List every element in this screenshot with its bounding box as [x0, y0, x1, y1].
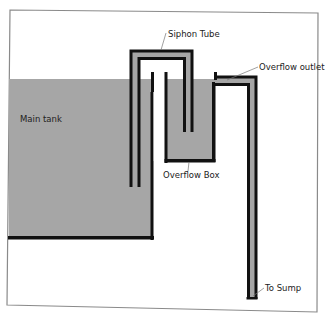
overflow-box-right-wall: [212, 82, 216, 162]
overflow-diagram: Siphon Tube Overflow outlet Main tank Ov…: [0, 0, 325, 321]
main-tank-inner-wall: [151, 72, 154, 92]
overflow-outlet-label: Overflow outlet: [259, 62, 325, 72]
siphon-tube-label: Siphon Tube: [168, 29, 220, 39]
overflow-box-label: Overflow Box: [163, 170, 219, 180]
sump-pipe-bottom: [247, 297, 258, 300]
main-tank-label: Main tank: [20, 114, 62, 124]
main-tank-bottom-wall: [8, 236, 154, 240]
overflow-box-bottom-wall: [165, 159, 216, 163]
overflow-box-left-wall: [165, 72, 168, 163]
air-gap: [154, 72, 165, 240]
to-sump-label: To Sump: [264, 283, 301, 293]
